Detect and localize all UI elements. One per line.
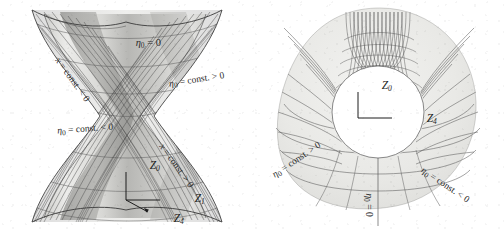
figure-svg: η0 = 0 η0 = const. > 0 η0 = const. < 0 x… [0,0,504,232]
label-eta-zero-left: η0 = 0 [112,37,179,49]
right-panel: η0 = const. > 0 η0 = const. < 0 η0 = 0 Z… [253,8,485,232]
left-panel: η0 = 0 η0 = const. > 0 η0 = const. < 0 x… [30,10,242,227]
label-eta-zero-right: η0 = 0 [362,172,374,232]
axis-label-z4-left: Z4 [142,212,210,227]
figure-container: η0 = 0 η0 = const. > 0 η0 = const. < 0 x… [0,0,504,232]
